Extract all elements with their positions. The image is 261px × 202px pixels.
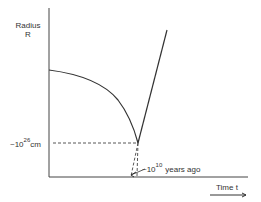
x-axis-label-time: Time t <box>216 183 239 192</box>
y-axis-label-r: R <box>25 30 31 39</box>
radius-vs-time-diagram: Radius R ~1026cm ~1010years ago Time t <box>0 0 261 202</box>
contraction-curve <box>49 70 138 143</box>
y-axis-label-radius: Radius <box>16 21 41 30</box>
expansion-line <box>138 30 167 143</box>
radius-annotation: ~1026cm <box>10 137 41 149</box>
time-dashed-guide-left <box>131 143 138 176</box>
time-annotation: ~1010years ago <box>142 162 201 174</box>
